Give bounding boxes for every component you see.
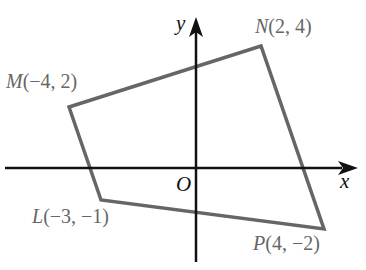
x-axis-label: x bbox=[339, 169, 350, 193]
coordinate-diagram: x y O M(−4, 2) N(2, 4) P(4, −2) L(−3, −1… bbox=[0, 0, 366, 270]
origin-label: O bbox=[176, 172, 191, 196]
point-label-p: P(4, −2) bbox=[252, 232, 320, 255]
point-label-n: N(2, 4) bbox=[254, 15, 312, 38]
point-label-l: L(−3, −1) bbox=[31, 205, 109, 228]
point-label-m: M(−4, 2) bbox=[5, 70, 77, 93]
y-axis-label: y bbox=[174, 11, 186, 35]
